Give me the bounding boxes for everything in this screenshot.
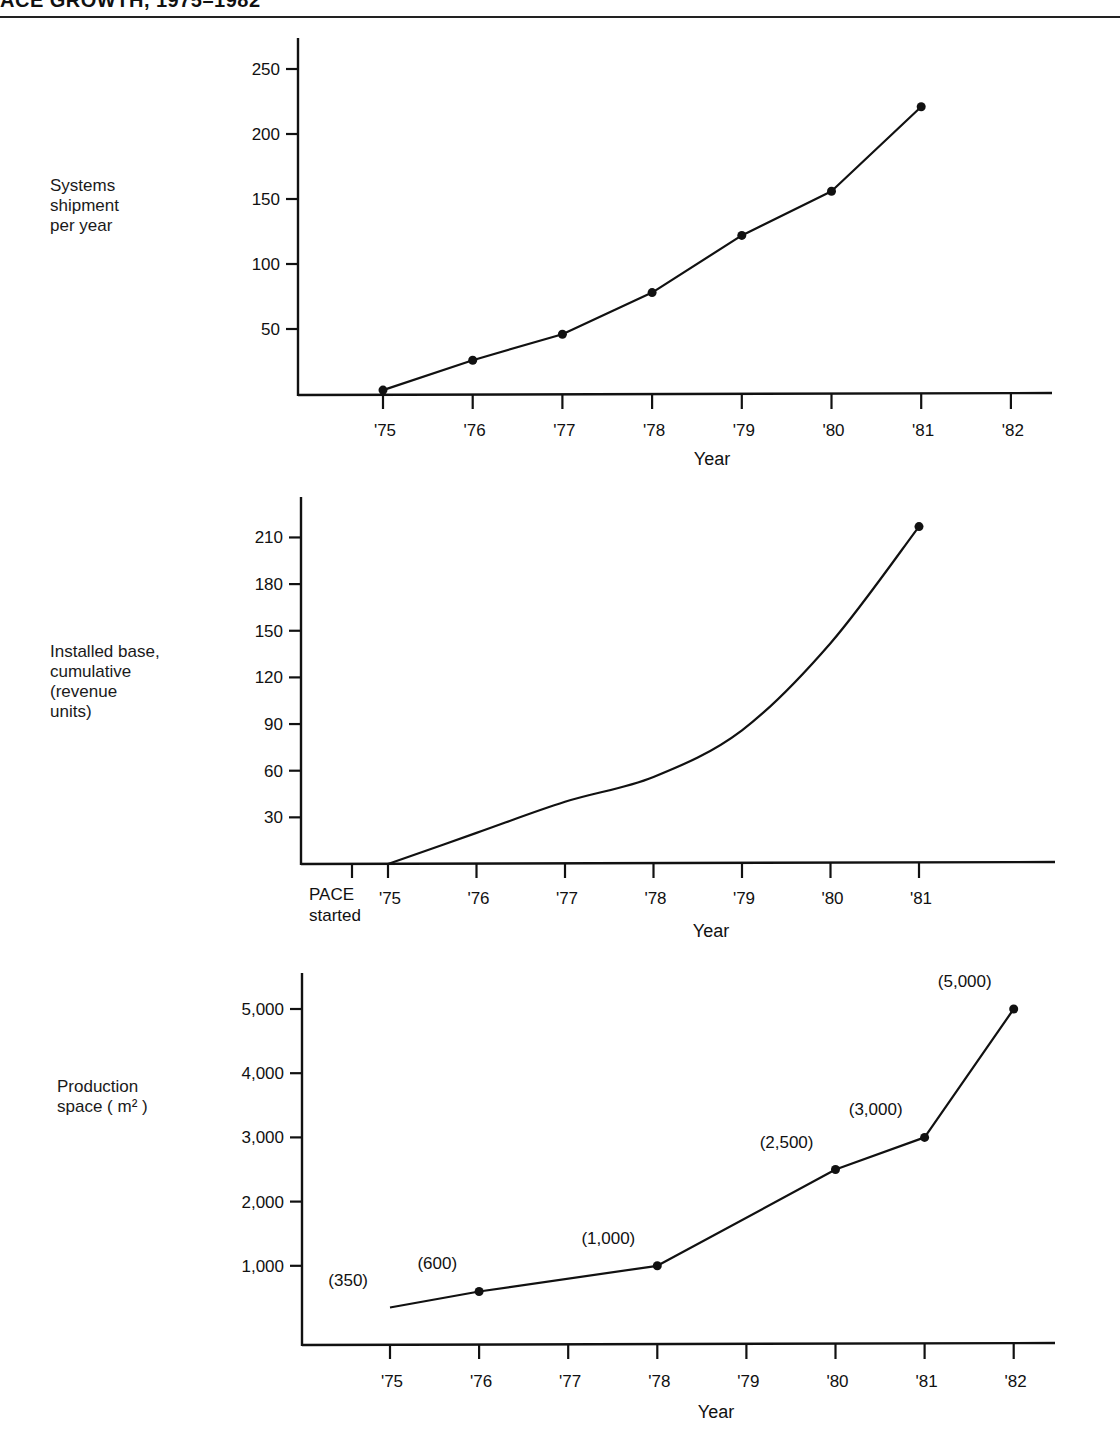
data-point	[475, 1287, 484, 1296]
x-axis-line	[302, 1343, 1055, 1345]
data-point	[1009, 1005, 1018, 1014]
y-tick-label: 60	[264, 762, 283, 781]
x-tick-label: '76	[470, 1372, 492, 1391]
x-tick-label: '75	[381, 1372, 403, 1391]
x-tick-label: '76	[467, 889, 489, 908]
series-line	[383, 107, 921, 390]
x-tick-label: '78	[643, 421, 665, 440]
data-label: (3,000)	[849, 1100, 903, 1119]
data-point	[737, 231, 746, 240]
data-point	[648, 288, 657, 297]
data-label: (350)	[328, 1271, 368, 1290]
x-tick-label: '81	[916, 1372, 938, 1391]
pace-started-label: PACE	[309, 885, 354, 904]
y-tick-label: 200	[252, 125, 280, 144]
data-point	[915, 522, 924, 531]
x-tick-label: '77	[559, 1372, 581, 1391]
series-line	[390, 1009, 1014, 1308]
growth-figure: 50100150200250'75'76'77'78'79'80'81'82Ye…	[0, 0, 1120, 1448]
x-tick-label: '80	[826, 1372, 848, 1391]
x-tick-label: '79	[733, 421, 755, 440]
x-axis-title: Year	[698, 1402, 734, 1422]
y-tick-label: 100	[252, 255, 280, 274]
y-tick-label: 2,000	[241, 1193, 284, 1212]
y-tick-label: 3,000	[241, 1128, 284, 1147]
y-tick-label: 90	[264, 715, 283, 734]
x-axis-line	[301, 862, 1055, 864]
y-tick-label: 180	[255, 575, 283, 594]
data-point	[920, 1133, 929, 1142]
x-axis-line	[298, 393, 1052, 395]
data-point	[827, 187, 836, 196]
data-label: (5,000)	[938, 972, 992, 991]
data-point	[653, 1261, 662, 1270]
data-point	[917, 102, 926, 111]
x-tick-label: '79	[733, 889, 755, 908]
x-tick-label: '76	[464, 421, 486, 440]
x-tick-label: '77	[556, 889, 578, 908]
x-tick-label: '82	[1005, 1372, 1027, 1391]
y-tick-label: 50	[261, 320, 280, 339]
pace-started-label: started	[309, 906, 361, 925]
data-label: (2,500)	[760, 1133, 814, 1152]
chart-installed-base: 306090120150180210'75'76'77'78'79'80'81P…	[255, 497, 1055, 941]
data-point	[468, 356, 477, 365]
data-point	[558, 330, 567, 339]
y-tick-label: 210	[255, 528, 283, 547]
x-tick-label: '75	[374, 421, 396, 440]
y-tick-label: 250	[252, 60, 280, 79]
x-tick-label: '82	[1002, 421, 1024, 440]
y-tick-label: 4,000	[241, 1064, 284, 1083]
y-tick-label: 1,000	[241, 1257, 284, 1276]
data-point	[831, 1165, 840, 1174]
x-tick-label: '78	[644, 889, 666, 908]
x-tick-label: '80	[822, 421, 844, 440]
chart-shipments: 50100150200250'75'76'77'78'79'80'81'82Ye…	[252, 38, 1052, 469]
y-tick-label: 5,000	[241, 1000, 284, 1019]
x-tick-label: '78	[648, 1372, 670, 1391]
y-tick-label: 120	[255, 668, 283, 687]
y-tick-label: 150	[255, 622, 283, 641]
data-label: (600)	[417, 1254, 457, 1273]
chart-production-space: 1,0002,0003,0004,0005,000'75'76'77'78'79…	[241, 972, 1055, 1422]
data-label: (1,000)	[581, 1229, 635, 1248]
x-axis-title: Year	[694, 449, 730, 469]
x-tick-label: '79	[737, 1372, 759, 1391]
data-point	[379, 386, 388, 395]
y-tick-label: 30	[264, 808, 283, 827]
x-tick-label: '81	[912, 421, 934, 440]
x-tick-label: '80	[821, 889, 843, 908]
x-tick-label: '77	[553, 421, 575, 440]
y-tick-label: 150	[252, 190, 280, 209]
series-line	[388, 527, 919, 864]
x-axis-title: Year	[693, 921, 729, 941]
x-tick-label: '75	[379, 889, 401, 908]
x-tick-label: '81	[910, 889, 932, 908]
